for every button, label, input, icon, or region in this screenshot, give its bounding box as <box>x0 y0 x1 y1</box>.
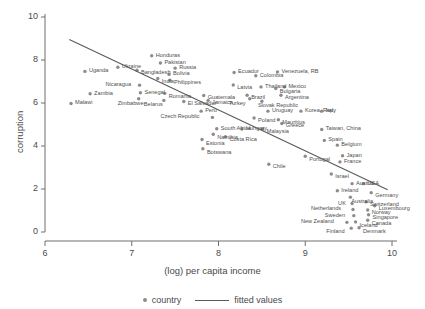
data-point <box>215 127 218 130</box>
data-point-label: Bangladesh <box>141 70 171 76</box>
data-point-label: Denmark <box>363 229 386 235</box>
data-point-label: Taiwan, China <box>326 126 361 132</box>
data-point <box>212 132 215 135</box>
data-point-label: Romania <box>169 94 191 100</box>
data-point <box>367 213 370 216</box>
data-point-label: Senegal <box>144 90 165 96</box>
data-point <box>369 191 372 194</box>
data-point-label: Hungary <box>246 126 267 132</box>
data-point-label: Bolivia <box>173 71 189 77</box>
data-point <box>350 182 353 185</box>
data-point-label: Uganda <box>89 68 109 74</box>
data-point <box>138 83 141 86</box>
data-point <box>156 77 159 80</box>
data-point-label: Botswana <box>207 150 232 156</box>
data-point <box>320 128 323 131</box>
x-tick-label: 10 <box>372 248 412 258</box>
data-point-label: Philippines <box>174 80 201 86</box>
data-point <box>116 66 119 69</box>
scatter-chart: 0246810 678910 MalawiUgandaZambiaZimbabw… <box>0 0 425 309</box>
data-point <box>323 139 326 142</box>
data-point <box>277 118 280 121</box>
legend-item-fitted: fitted values <box>195 295 282 305</box>
data-point-label: Ukraine <box>122 64 141 70</box>
data-point <box>211 116 214 119</box>
data-point <box>232 71 235 74</box>
data-point <box>245 94 248 97</box>
data-point-label: Costa Rica <box>229 137 256 143</box>
data-point <box>202 94 205 97</box>
x-axis-ticks <box>45 241 392 246</box>
data-point <box>200 138 203 141</box>
legend-line-icon <box>195 300 229 301</box>
x-axis-title: (log) per capita income <box>0 265 425 276</box>
data-point <box>304 155 307 158</box>
data-point-label: Mexico <box>288 84 306 90</box>
data-point-label: Ireland <box>341 188 358 194</box>
data-point-label: Latvia <box>237 85 252 91</box>
data-point <box>354 220 357 223</box>
data-point-label: New Zealand <box>301 219 334 225</box>
data-point-label: USA <box>367 181 379 187</box>
y-axis-ticks <box>41 17 45 232</box>
legend: country fitted values <box>0 295 425 305</box>
data-point-label: Malawi <box>75 100 92 106</box>
data-point <box>159 61 162 64</box>
data-point <box>182 100 185 103</box>
data-point-label: Greece <box>286 123 304 129</box>
data-point-label: France <box>344 159 361 165</box>
data-point <box>366 208 369 211</box>
data-point <box>330 172 333 175</box>
data-point-label: Peru <box>205 108 217 114</box>
data-point-label: Nicaragua <box>106 82 132 88</box>
data-point-label: Germany <box>375 193 398 199</box>
data-point-label: Chile <box>273 164 286 170</box>
data-point-label: Israel <box>335 174 349 180</box>
data-point <box>266 109 269 112</box>
legend-item-country: country <box>143 295 182 305</box>
legend-label-country: country <box>152 295 182 305</box>
y-axis-title: corruption <box>14 110 25 152</box>
x-tick-label: 7 <box>112 248 152 258</box>
data-point-label: Brazil <box>251 95 265 101</box>
x-tick-label: 9 <box>285 248 325 258</box>
data-point <box>201 147 204 150</box>
data-point <box>199 109 202 112</box>
y-tick-label: 10 <box>0 11 38 21</box>
data-point <box>83 70 86 73</box>
x-tick-label: 8 <box>199 248 239 258</box>
data-point <box>69 102 72 105</box>
data-point-label: Finland <box>326 229 344 235</box>
data-point-label: Portugal <box>309 157 330 163</box>
data-point <box>336 143 339 146</box>
data-point <box>232 83 235 86</box>
x-tick-label: 6 <box>25 248 65 258</box>
data-point-label: Belgium <box>341 142 361 148</box>
data-point <box>352 214 355 217</box>
data-point-label: Ecuador <box>238 69 259 75</box>
data-point-label: Uruguay <box>272 108 293 114</box>
data-point <box>150 54 153 57</box>
data-point-label: Argentina <box>285 95 309 101</box>
data-point-label: Zambia <box>94 91 113 97</box>
data-point-label: Italy <box>326 108 336 114</box>
data-point <box>351 208 354 211</box>
legend-dot-icon <box>143 298 147 302</box>
data-point-label: Turkey <box>229 101 246 107</box>
y-tick-label: 2 <box>0 183 38 193</box>
data-point <box>336 189 339 192</box>
fitted-values-line <box>69 40 387 190</box>
y-tick-label: 6 <box>0 97 38 107</box>
data-point <box>173 66 176 69</box>
data-point-label: India <box>162 79 174 85</box>
data-point-label: Malaysia <box>267 129 289 135</box>
data-point <box>341 154 344 157</box>
data-point-label: Canada <box>372 221 392 227</box>
data-point-label: Russia <box>179 65 196 71</box>
data-point-label: Colombia <box>260 73 284 79</box>
legend-label-fitted: fitted values <box>234 295 282 305</box>
data-point <box>139 91 142 94</box>
data-point <box>267 163 270 166</box>
data-point <box>350 226 353 229</box>
data-point-label: Venezuela, RB <box>281 69 318 75</box>
